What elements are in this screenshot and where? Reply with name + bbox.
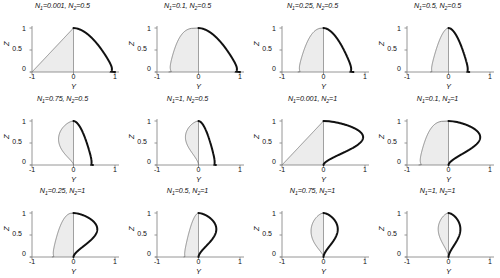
right-lobe-curve <box>199 213 217 257</box>
y-tick-label: 0.5 <box>8 45 22 52</box>
plot-panel: N1=1, N2=1Z10.50-101Y <box>375 185 500 278</box>
x-axis-label: Y <box>261 82 386 91</box>
y-tick-label: 1 <box>262 25 276 32</box>
plot-panel: N1=0.5, N2=0.5Z10.50-101Y <box>375 0 500 93</box>
panel-title: N1=0.1, N2=1 <box>375 94 500 104</box>
plot-panel: N1=0.25, N2=1Z10.50-101Y <box>0 185 125 278</box>
panel-title: N1=0.001, N2=1 <box>250 94 375 104</box>
curve-canvas <box>125 12 250 92</box>
curve-canvas <box>125 197 250 277</box>
x-axis-label: Y <box>11 82 136 91</box>
left-lobe-fill <box>169 28 199 72</box>
curve-canvas <box>375 105 500 185</box>
left-lobe-fill <box>298 28 324 72</box>
x-tick-label: 0 <box>192 258 206 265</box>
x-axis-label: Y <box>136 267 261 276</box>
curve-canvas <box>250 12 375 92</box>
x-axis-label: Y <box>11 267 136 276</box>
x-tick-label: 1 <box>233 166 247 173</box>
right-lobe-curve <box>324 28 354 72</box>
panel-title: N1=0.75, N2=1 <box>250 186 375 196</box>
y-tick-label: 0 <box>262 158 276 165</box>
y-tick-label: 0.5 <box>8 230 22 237</box>
left-lobe-fill <box>419 121 449 165</box>
plot-panel: N1=1, N2=0.5Z10.50-101Y <box>125 93 250 186</box>
y-tick-label: 0 <box>12 250 26 257</box>
x-tick-label: 0 <box>317 166 331 173</box>
x-tick-label: -1 <box>275 166 289 173</box>
figure-root: N1=0.001, N2=0.5Z10.50-101YN1=0.1, N2=0.… <box>0 0 500 278</box>
x-axis-label: Y <box>11 175 136 184</box>
y-tick-label: 0.5 <box>383 45 397 52</box>
y-tick-label: 1 <box>12 25 26 32</box>
y-tick-label: 0 <box>12 65 26 72</box>
panel-grid: N1=0.001, N2=0.5Z10.50-101YN1=0.1, N2=0.… <box>0 0 500 278</box>
plot-panel: N1=0.75, N2=0.5Z10.50-101Y <box>0 93 125 186</box>
right-lobe-curve <box>74 28 116 72</box>
plot-area: Z10.50-101Y <box>125 105 250 185</box>
y-tick-label: 1 <box>137 210 151 217</box>
x-tick-label: -1 <box>400 73 414 80</box>
plot-area: Z10.50-101Y <box>250 105 375 185</box>
y-tick-label: 1 <box>387 118 401 125</box>
x-tick-label: -1 <box>400 258 414 265</box>
plot-panel: N1=0.5, N2=1Z10.50-101Y <box>125 185 250 278</box>
right-lobe-curve <box>449 213 461 257</box>
x-tick-label: 1 <box>483 166 497 173</box>
plot-panel: N1=0.25, N2=0.5Z10.50-101Y <box>250 0 375 93</box>
plot-area: Z10.50-101Y <box>375 105 500 185</box>
x-tick-label: 1 <box>233 258 247 265</box>
panel-title: N1=0.1, N2=0.5 <box>125 1 250 11</box>
x-tick-label: -1 <box>150 258 164 265</box>
y-tick-label: 0 <box>262 250 276 257</box>
plot-panel: N1=0.001, N2=0.5Z10.50-101Y <box>0 0 125 93</box>
y-tick-label: 1 <box>262 118 276 125</box>
panel-title: N1=1, N2=1 <box>375 186 500 196</box>
x-tick-label: -1 <box>150 73 164 80</box>
curve-canvas <box>250 105 375 185</box>
x-tick-label: 1 <box>483 73 497 80</box>
right-lobe-curve <box>449 28 470 72</box>
plot-area: Z10.50-101Y <box>375 197 500 277</box>
curve-canvas <box>0 197 125 277</box>
plot-area: Z10.50-101Y <box>125 197 250 277</box>
y-tick-label: 0.5 <box>133 45 147 52</box>
left-lobe-fill <box>185 121 198 165</box>
plot-panel: N1=0.1, N2=1Z10.50-101Y <box>375 93 500 186</box>
y-tick-label: 0 <box>387 158 401 165</box>
x-tick-label: 0 <box>442 258 456 265</box>
plot-area: Z10.50-101Y <box>250 197 375 277</box>
plot-panel: N1=0.001, N2=1Z10.50-101Y <box>250 93 375 186</box>
y-tick-label: 0.5 <box>258 45 272 52</box>
x-axis-label: Y <box>386 82 500 91</box>
y-tick-label: 0.5 <box>133 230 147 237</box>
curve-canvas <box>250 197 375 277</box>
plot-panel: N1=0.75, N2=1Z10.50-101Y <box>250 185 375 278</box>
right-lobe-curve <box>199 121 216 165</box>
y-tick-label: 0 <box>387 250 401 257</box>
plot-panel: N1=0.1, N2=0.5Z10.50-101Y <box>125 0 250 93</box>
x-tick-label: -1 <box>400 166 414 173</box>
y-tick-label: 0.5 <box>258 230 272 237</box>
x-tick-label: 1 <box>483 258 497 265</box>
curve-canvas <box>0 12 125 92</box>
x-tick-label: 0 <box>442 166 456 173</box>
y-tick-label: 0 <box>137 65 151 72</box>
x-axis-label: Y <box>136 175 261 184</box>
y-tick-label: 1 <box>137 25 151 32</box>
y-tick-label: 1 <box>262 210 276 217</box>
x-tick-label: 0 <box>442 73 456 80</box>
left-lobe-fill <box>311 213 323 257</box>
right-lobe-curve <box>324 121 364 165</box>
y-tick-label: 1 <box>12 210 26 217</box>
x-tick-label: 0 <box>192 73 206 80</box>
y-tick-label: 0 <box>387 65 401 72</box>
y-tick-label: 0.5 <box>383 138 397 145</box>
x-tick-label: 1 <box>108 73 122 80</box>
panel-title: N1=0.25, N2=1 <box>0 186 125 196</box>
x-tick-label: 0 <box>192 166 206 173</box>
left-lobe-fill <box>52 213 74 257</box>
x-axis-label: Y <box>386 267 500 276</box>
x-tick-label: 1 <box>108 258 122 265</box>
y-tick-label: 1 <box>387 210 401 217</box>
